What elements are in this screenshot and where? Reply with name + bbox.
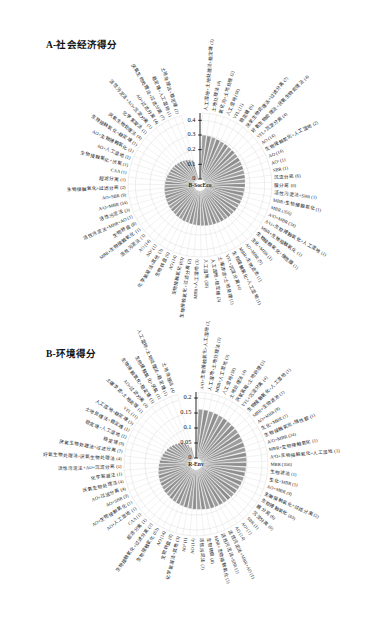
axis-tick-label: 0.3 (188, 130, 196, 137)
axis-tick-label: 0.05 (180, 438, 191, 445)
category-label: AO² (1) (271, 157, 287, 166)
category-label: MBR (356) (270, 462, 292, 467)
category-label: 沉淀分离 (6) (274, 172, 301, 181)
panel-a-plot: 00.10.20.30.4B-SocEco人工湿地+土地处理法+稳定塘 (1)土… (0, 0, 388, 322)
category-label: AO² (1) (181, 537, 188, 553)
category-label: 好氧生物处理法+厌氧生物处理法 (4) (42, 451, 122, 463)
panel-environmental: B-环境得分 00.050.10.150.2R-EnvA²O+生物接触氧化+人工… (0, 321, 388, 643)
category-label: MBR+人工湿地 (3) (192, 259, 200, 299)
panel-socioeconomic: A-社会经济得分 00.10.20.30.4B-SocEco人工湿地+土地处理法… (0, 0, 388, 322)
axis-tick-label: 0.1 (184, 423, 192, 430)
axis-tick-label: 0 (192, 174, 195, 181)
axis-tick-label: 0.2 (188, 145, 196, 152)
category-label: AO (14) (190, 538, 196, 554)
panel-b-plot: 00.050.10.150.2R-EnvA²O+生物接触氧化+人工湿地 (1)人… (0, 321, 388, 643)
category-label: 人工湿地 (58) (202, 259, 211, 289)
axis-tick-label: 0.1 (188, 160, 196, 167)
category-label: 活性污泥法 (3) (198, 538, 207, 570)
category-label: 活性污泥法+AO+沉淀分离 (1) (58, 463, 122, 472)
axis-tick-label: 0.4 (188, 116, 197, 123)
category-label: 生物接触氧化+过滤分离 (2) (66, 184, 126, 193)
axis-tick-label: 0 (188, 453, 191, 460)
radial-chart-b: 00.050.10.150.2R-EnvA²O+生物接触氧化+人工湿地 (1)人… (0, 321, 388, 643)
center-label: R-Env (188, 461, 204, 467)
category-label: 膜分离 (6) (274, 182, 296, 189)
bars (158, 409, 247, 509)
category-label: CAA (1) (110, 168, 127, 176)
category-label: 超滤分离 (1) (99, 175, 126, 184)
axis-tick-label: 0.15 (180, 408, 191, 415)
radial-chart-a: 00.10.20.30.4B-SocEco人工湿地+土地处理法+稳定塘 (1)土… (0, 0, 388, 322)
category-label: SBR (1) (273, 165, 289, 173)
center-label: B-SocEco (189, 182, 212, 188)
category-label: AO+SBR (9) (102, 192, 127, 200)
axis-tick-label: 0.2 (184, 393, 192, 400)
